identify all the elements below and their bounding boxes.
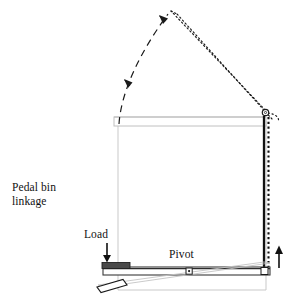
diagram-canvas (0, 0, 294, 304)
lift-arrow (275, 246, 283, 269)
pivot-label: Pivot (169, 248, 194, 262)
pedal-bin-linkage-diagram: Pedal binlinkage Load Pivot (0, 0, 294, 304)
load-block (102, 263, 130, 269)
pivot-pin (186, 268, 192, 274)
page-title-line-2: linkage (12, 195, 47, 207)
lid-closed (114, 117, 266, 126)
load-arrow (103, 243, 111, 263)
hinge-pin (262, 109, 268, 115)
load-label: Load (84, 228, 108, 242)
motion-arc (119, 14, 168, 124)
lid-open (171, 11, 279, 122)
page-title: Pedal binlinkage (12, 181, 56, 208)
pedal (97, 280, 127, 293)
page-title-line-1: Pedal bin (12, 181, 56, 193)
rod-lever-joint (261, 268, 268, 275)
